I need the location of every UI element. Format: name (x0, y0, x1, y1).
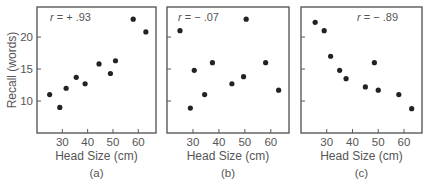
data-point (313, 20, 318, 25)
panel-label: (c) (355, 167, 369, 179)
correlation-annotation: r = − .07 (178, 11, 219, 23)
data-point (188, 105, 193, 110)
scatter-panel-c: 30405060r = − .89Head Size (cm)(c) (301, 7, 422, 179)
data-point (343, 76, 348, 81)
data-point (202, 92, 207, 97)
data-point (376, 88, 381, 93)
data-point (177, 28, 182, 33)
panel-label: (b) (221, 167, 235, 179)
x-tick-label: 50 (372, 136, 385, 148)
data-point (47, 92, 52, 97)
data-point (337, 68, 342, 73)
correlation-annotation: r = − .89 (357, 11, 398, 23)
data-point (276, 88, 281, 93)
data-point (96, 61, 101, 66)
x-axis-label: Head Size (cm) (320, 149, 403, 163)
data-point (108, 71, 113, 76)
data-point (363, 84, 368, 89)
data-point (328, 54, 333, 59)
data-point (409, 106, 414, 111)
scatter-panel-a: 30405060101520r = + .93Head Size (cm)(a) (20, 7, 156, 179)
data-point (64, 86, 69, 91)
scatter-panel-b: 30405060r = − .07Head Size (cm)(b) (167, 7, 289, 179)
scatter-figure: Recall (words) 30405060101520r = + .93He… (0, 0, 432, 188)
x-axis-label: Head Size (cm) (187, 149, 270, 163)
data-point (372, 60, 377, 65)
data-point (244, 17, 249, 22)
y-axis-label: Recall (words) (5, 32, 19, 109)
x-tick-label: 50 (107, 136, 120, 148)
data-point (396, 92, 401, 97)
x-tick-label: 30 (56, 136, 69, 148)
x-tick-label: 40 (81, 136, 94, 148)
data-point (322, 28, 327, 33)
data-point (192, 68, 197, 73)
correlation-annotation: r = + .93 (50, 11, 91, 23)
plot-frame (167, 7, 289, 133)
data-point (83, 81, 88, 86)
y-tick-label: 10 (20, 95, 33, 107)
x-tick-label: 30 (187, 136, 200, 148)
x-tick-label: 50 (238, 136, 251, 148)
figure-canvas: Recall (words) 30405060101520r = + .93He… (0, 0, 432, 188)
x-tick-label: 60 (398, 136, 411, 148)
data-point (143, 29, 148, 34)
data-point (229, 81, 234, 86)
x-tick-label: 30 (320, 136, 333, 148)
data-point (131, 17, 136, 22)
x-tick-label: 40 (346, 136, 359, 148)
x-tick-label: 60 (264, 136, 277, 148)
y-tick-label: 15 (20, 63, 33, 75)
x-axis-label: Head Size (cm) (55, 149, 138, 163)
panel-label: (a) (89, 167, 103, 179)
data-point (113, 58, 118, 63)
y-tick-label: 20 (20, 31, 33, 43)
data-point (57, 105, 62, 110)
x-tick-label: 40 (213, 136, 226, 148)
data-point (263, 60, 268, 65)
plot-frame (301, 7, 422, 133)
plot-frame (37, 7, 156, 133)
data-point (210, 60, 215, 65)
panels-group: 30405060101520r = + .93Head Size (cm)(a)… (20, 7, 422, 179)
x-tick-label: 60 (132, 136, 145, 148)
data-point (74, 75, 79, 80)
data-point (241, 74, 246, 79)
